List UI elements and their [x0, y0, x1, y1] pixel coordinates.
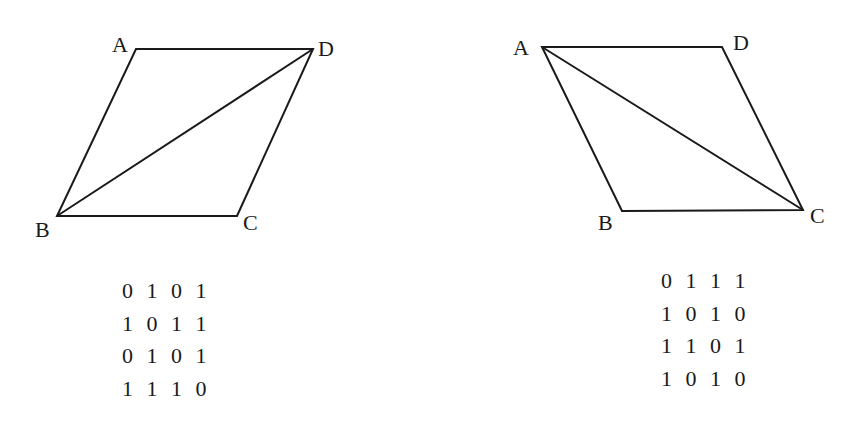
matrix-cell: 0 — [710, 330, 735, 363]
matrix-row: 0 1 1 1 — [661, 265, 759, 298]
matrix-cell: 0 — [171, 340, 196, 373]
left-label-C: C — [243, 212, 258, 234]
matrix-cell: 1 — [147, 275, 172, 308]
matrix-cell: 0 — [735, 363, 760, 396]
matrix-cell: 1 — [735, 265, 760, 298]
matrix-cell: 0 — [122, 275, 147, 308]
matrix-row: 0 1 0 1 — [122, 340, 220, 373]
right-label-A: A — [513, 37, 529, 59]
matrix-row: 1 1 1 0 — [122, 373, 220, 406]
matrix-cell: 1 — [122, 373, 147, 406]
left-label-A: A — [112, 34, 128, 56]
matrix-cell: 0 — [147, 308, 172, 341]
matrix-cell: 1 — [147, 340, 172, 373]
matrix-cell: 1 — [196, 275, 221, 308]
matrix-cell: 1 — [710, 265, 735, 298]
left-label-B: B — [35, 219, 50, 241]
matrix-cell: 0 — [686, 363, 711, 396]
matrix-row: 1 0 1 0 — [661, 363, 759, 396]
matrix-cell: 0 — [661, 265, 686, 298]
matrix-cell: 1 — [171, 373, 196, 406]
matrix-row: 1 0 1 1 — [122, 308, 220, 341]
matrix-cell: 1 — [686, 330, 711, 363]
matrix-cell: 0 — [122, 340, 147, 373]
matrix-cell: 1 — [710, 363, 735, 396]
matrix-cell: 1 — [661, 363, 686, 396]
matrix-cell: 1 — [196, 308, 221, 341]
matrix-cell: 1 — [122, 308, 147, 341]
matrix-cell: 0 — [171, 275, 196, 308]
right-label-D: D — [733, 32, 749, 54]
matrix-cell: 0 — [196, 373, 221, 406]
matrix-cell: 1 — [735, 330, 760, 363]
matrix-cell: 1 — [661, 298, 686, 331]
matrix-cell: 0 — [735, 298, 760, 331]
matrix-cell: 1 — [710, 298, 735, 331]
matrix-cell: 0 — [686, 298, 711, 331]
matrix-row: 1 1 0 1 — [661, 330, 759, 363]
matrix-cell: 1 — [171, 308, 196, 341]
left-label-D: D — [318, 38, 334, 60]
left-parallelogram — [57, 49, 313, 216]
right-label-B: B — [598, 212, 613, 234]
right-adjacency-matrix: 0 1 1 1 1 0 1 0 1 1 0 1 1 0 1 0 — [661, 265, 759, 395]
matrix-cell: 1 — [147, 373, 172, 406]
matrix-cell: 1 — [661, 330, 686, 363]
matrix-row: 1 0 1 0 — [661, 298, 759, 331]
right-label-C: C — [810, 205, 825, 227]
matrix-row: 0 1 0 1 — [122, 275, 220, 308]
matrix-cell: 1 — [196, 340, 221, 373]
matrix-cell: 1 — [686, 265, 711, 298]
left-adjacency-matrix: 0 1 0 1 1 0 1 1 0 1 0 1 1 1 1 0 — [122, 275, 220, 405]
right-parallelogram — [542, 47, 803, 211]
